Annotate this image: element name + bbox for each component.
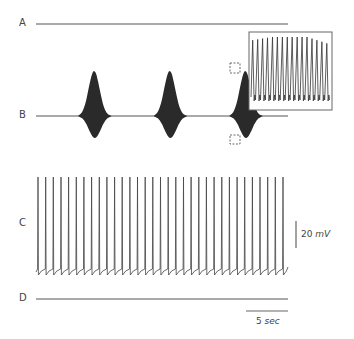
dashed-selection-top <box>230 63 240 73</box>
voltage-scale-label: 20 mV <box>301 229 330 239</box>
figure: A B C D 20 mV 5 sec <box>0 0 354 339</box>
trace-b-bursts <box>77 71 263 138</box>
trace-c-spikes <box>36 177 288 275</box>
burst <box>77 71 112 138</box>
trace-label-d: D <box>19 292 27 303</box>
trace-label-b: B <box>19 109 26 120</box>
trace-label-a: A <box>19 17 26 28</box>
dashed-selection-bottom <box>230 135 240 144</box>
trace-label-c: C <box>19 217 26 228</box>
time-scale-label: 5 sec <box>256 316 280 326</box>
burst <box>153 71 188 138</box>
traces-svg <box>0 0 354 339</box>
